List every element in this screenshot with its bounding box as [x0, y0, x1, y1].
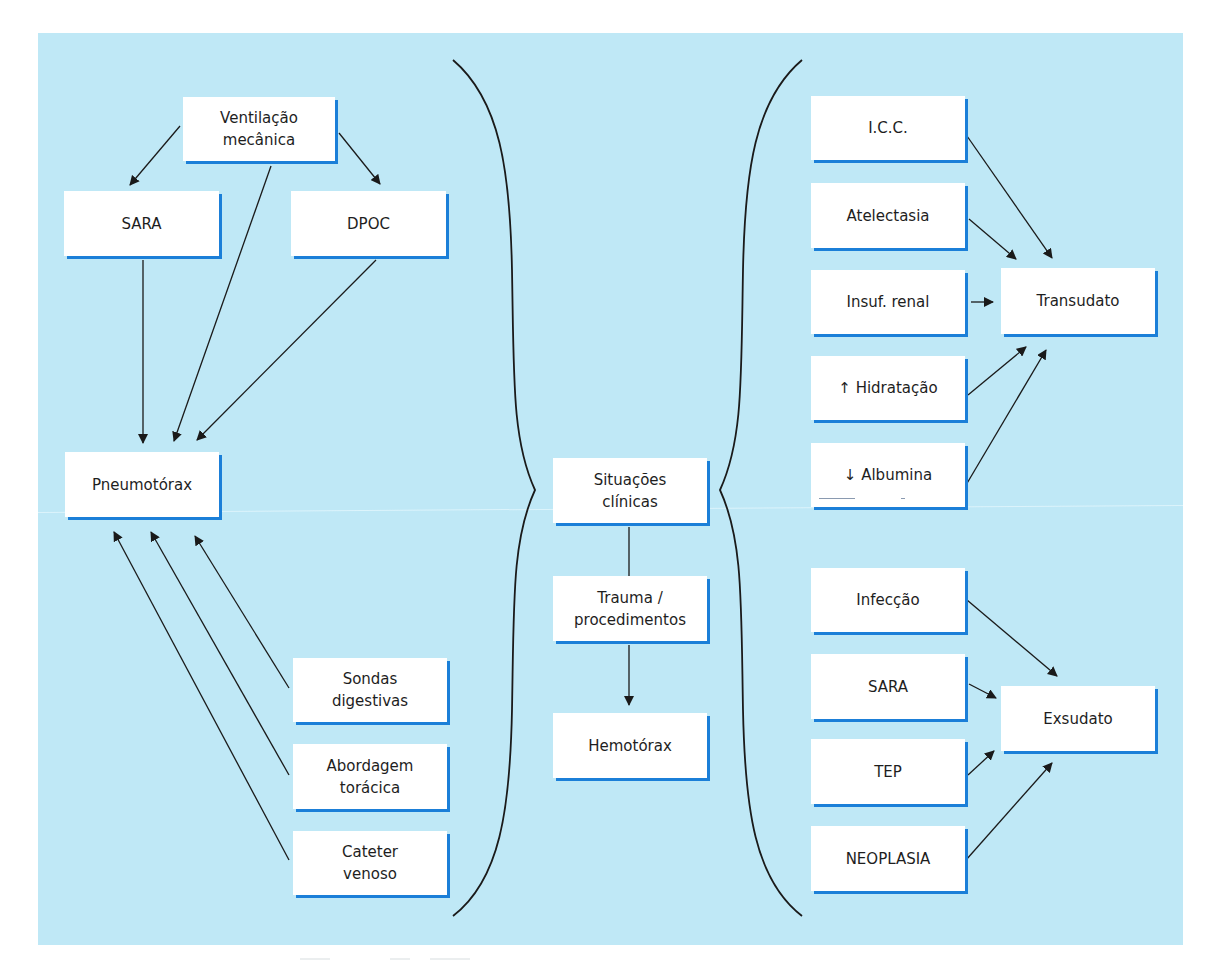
node-transudato: Transudato [1001, 268, 1155, 334]
node-exsudato: Exsudato [1001, 686, 1155, 751]
page-bleed-artifact [390, 958, 410, 960]
node-infeccao: Infecção [811, 568, 965, 632]
node-hemotorax: Hemotórax [553, 713, 707, 778]
node-trauma-procedimentos: Trauma / procedimentos [553, 576, 707, 641]
node-abordagem-toracica: Abordagem torácica [293, 744, 447, 809]
node-atelectasia: Atelectasia [811, 183, 965, 248]
albumina-print-artifact [819, 498, 855, 499]
node-ventilacao-mecanica: Ventilação mecânica [183, 97, 335, 161]
node-pneumotorax: Pneumotórax [65, 452, 219, 517]
albumina-print-artifact [901, 498, 905, 499]
node-neoplasia: NEOPLASIA [811, 826, 965, 891]
node-situacoes-clinicas: Situações clínicas [553, 458, 707, 523]
node-sara-right: SARA [811, 654, 965, 719]
node-hidratacao: ↑ Hidratação [811, 356, 965, 420]
page-bleed-artifact [430, 958, 470, 960]
node-sara-left: SARA [64, 191, 219, 256]
node-cateter-venoso: Cateter venoso [293, 831, 447, 895]
page-bleed-artifact [300, 958, 330, 960]
node-dpoc: DPOC [291, 191, 446, 256]
node-insuf-renal: Insuf. renal [811, 270, 965, 334]
node-sondas-digestivas: Sondas digestivas [293, 658, 447, 722]
node-icc: I.C.C. [811, 96, 965, 160]
node-tep: TEP [811, 739, 965, 804]
